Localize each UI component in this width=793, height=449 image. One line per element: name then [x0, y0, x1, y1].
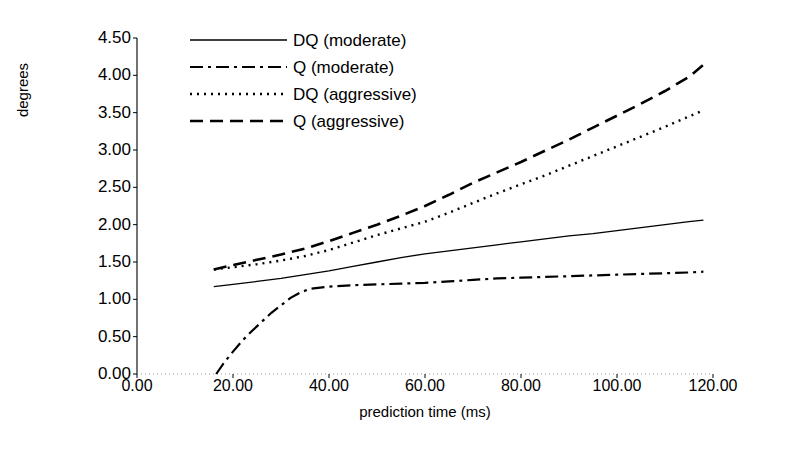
axis-ticks: [133, 38, 713, 378]
series-line-1: [216, 272, 703, 374]
series-line-0: [214, 220, 704, 286]
series-line-3: [214, 65, 704, 270]
legend-label-0: DQ (moderate): [293, 31, 406, 50]
legend-label-3: Q (aggressive): [293, 112, 404, 131]
legend-label-2: DQ (aggressive): [293, 85, 417, 104]
series-line-2: [214, 110, 704, 269]
legend: DQ (moderate)Q (moderate)DQ (aggressive)…: [190, 31, 417, 131]
plot-area: DQ (moderate)Q (moderate)DQ (aggressive)…: [0, 0, 793, 449]
legend-label-1: Q (moderate): [293, 58, 394, 77]
chart-container: degrees 4.50 4.00 3.50 3.00 2.50 2.00 1.…: [0, 0, 793, 449]
data-series-group: [214, 65, 704, 374]
